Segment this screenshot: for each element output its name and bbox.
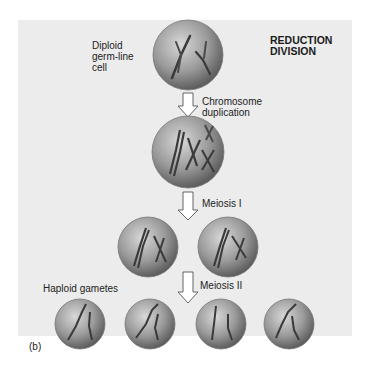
gamete-3 [196,299,246,349]
meiosis-i-cell-left [118,217,178,277]
arrow-down-icon [178,93,198,117]
reduction-division-title: REDUCTION DIVISION [270,35,332,57]
meiosis-ii-label: Meiosis II [200,280,242,291]
duplicated-cell [152,116,224,188]
haploid-gametes-label: Haploid gametes [43,283,118,294]
gamete-1 [55,299,105,349]
meiosis-i-label: Meiosis I [202,198,241,209]
arrow-down-icon [178,192,198,220]
arrow-down-icon [178,272,198,303]
meiosis-i-cell-right [198,217,258,277]
gamete-4 [264,299,314,349]
panel-label: (b) [29,341,41,352]
diploid-cell [153,20,223,90]
chromosome-duplication-label: Chromosome duplication [202,96,262,118]
gamete-2 [125,299,175,349]
diploid-label: Diploid germ-line cell [92,40,134,73]
